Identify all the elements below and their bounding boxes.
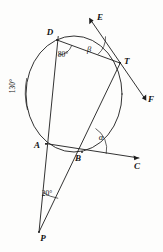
point-dot-B [81,151,83,153]
label-point-C: C [134,161,141,171]
label-point-D: D [46,27,54,37]
secant-line-P-B-T [39,63,121,233]
geometry-canvas: D T A B P E F C 80° 130° β α 20° [0,0,163,252]
label-point-E: E [96,12,103,22]
label-point-F: F [147,94,154,104]
label-point-T: T [124,56,130,66]
label-arc-130: 130° [8,79,17,93]
point-dot-D [56,39,58,41]
geometry-diagram: D T A B P E F C 80° 130° β α 20° [0,0,163,252]
tangent-line-E-T-F [90,19,146,100]
label-angle-at-D: 80° [58,50,69,59]
secant-line-P-A-D [39,37,58,233]
label-point-A: A [33,140,40,150]
point-dot-A [45,143,47,145]
label-point-B: B [74,153,81,163]
chord-A-B-extended-to-C [46,144,140,159]
label-angle-at-B: α [99,132,104,142]
circle-outline [26,36,122,152]
label-angle-at-T: β [86,44,92,54]
arrowhead-C-icon [134,155,140,160]
label-angle-at-P: 20° [42,189,53,198]
point-dot-T [119,62,121,64]
label-point-P: P [40,233,46,243]
